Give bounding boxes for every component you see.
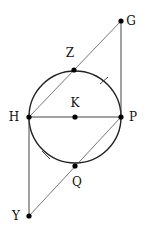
point-h (26, 114, 31, 119)
point-p (118, 114, 123, 119)
point-y (26, 213, 31, 218)
geometry-diagram: G Z H K P Q Y (0, 0, 151, 234)
label-q: Q (72, 175, 82, 189)
label-g: G (126, 14, 136, 28)
label-h: H (9, 110, 19, 124)
label-k: K (71, 96, 81, 110)
point-q (72, 163, 77, 168)
point-k (72, 114, 77, 119)
point-z (71, 67, 76, 72)
point-g (118, 18, 123, 23)
label-y: Y (11, 209, 21, 223)
label-z: Z (66, 46, 74, 60)
label-p: P (129, 110, 137, 124)
